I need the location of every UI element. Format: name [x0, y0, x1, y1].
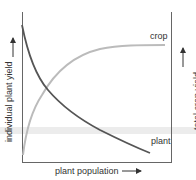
crop-curve-label: crop	[150, 31, 168, 41]
crop-curve	[23, 45, 165, 155]
chart-svg	[0, 0, 196, 180]
plant-curve-label: plant	[151, 136, 171, 146]
yield-chart: crop plant plant population individual p…	[0, 0, 196, 180]
x-axis-label: plant population	[55, 166, 119, 176]
left-y-axis-label: individual plant yield	[4, 61, 14, 142]
plant-curve	[22, 25, 150, 153]
right-y-axis-label: total crop yield	[192, 72, 196, 130]
